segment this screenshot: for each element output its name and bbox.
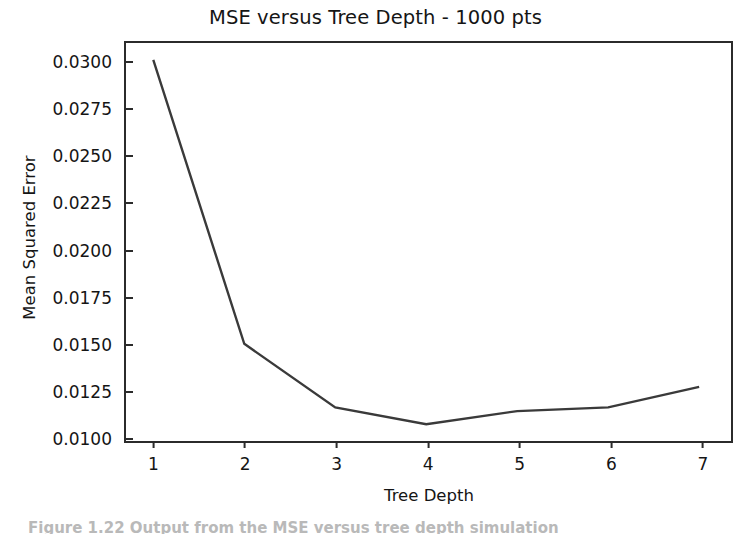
x-tick: 2 bbox=[240, 441, 251, 474]
x-tick: 3 bbox=[331, 441, 342, 474]
plot-area: 0.01000.01250.01500.01750.02000.02250.02… bbox=[124, 41, 733, 443]
x-tick-mark bbox=[336, 441, 338, 448]
y-tick: 0.0300 bbox=[53, 52, 126, 72]
y-tick-mark bbox=[126, 250, 133, 252]
y-tick-mark bbox=[126, 391, 133, 393]
y-tick: 0.0225 bbox=[53, 193, 126, 213]
x-tick-mark bbox=[610, 441, 612, 448]
x-tick: 4 bbox=[423, 441, 434, 474]
series-polyline bbox=[153, 60, 699, 424]
line-series-mean-squared-error bbox=[126, 43, 731, 441]
x-tick: 5 bbox=[514, 441, 525, 474]
y-tick: 0.0250 bbox=[53, 146, 126, 166]
y-tick-mark bbox=[126, 202, 133, 204]
y-tick-label: 0.0275 bbox=[53, 99, 126, 119]
x-tick-mark bbox=[519, 441, 521, 448]
y-tick-mark bbox=[126, 438, 133, 440]
y-tick-label: 0.0250 bbox=[53, 146, 126, 166]
y-tick-label: 0.0175 bbox=[53, 288, 126, 308]
y-tick-label: 0.0200 bbox=[53, 241, 126, 261]
figure-container: MSE versus Tree Depth - 1000 pts Mean Sq… bbox=[0, 0, 751, 534]
y-tick-mark bbox=[126, 297, 133, 299]
x-tick: 1 bbox=[148, 441, 159, 474]
x-tick-mark bbox=[244, 441, 246, 448]
y-tick-label: 0.0100 bbox=[53, 429, 126, 449]
y-tick-label: 0.0225 bbox=[53, 193, 126, 213]
y-tick: 0.0125 bbox=[53, 382, 126, 402]
y-tick-label: 0.0300 bbox=[53, 52, 126, 72]
y-tick: 0.0100 bbox=[53, 429, 126, 449]
x-tick-mark bbox=[152, 441, 154, 448]
y-tick: 0.0275 bbox=[53, 99, 126, 119]
figure-caption-remnant: Figure 1.22 Output from the MSE versus t… bbox=[28, 519, 728, 534]
x-tick: 7 bbox=[698, 441, 709, 474]
y-axis-label: Mean Squared Error bbox=[20, 88, 39, 388]
y-tick: 0.0175 bbox=[53, 288, 126, 308]
chart-title: MSE versus Tree Depth - 1000 pts bbox=[0, 6, 751, 29]
x-axis-label: Tree Depth bbox=[124, 486, 734, 505]
x-tick-mark bbox=[702, 441, 704, 448]
y-tick-mark bbox=[126, 61, 133, 63]
y-tick-mark bbox=[126, 108, 133, 110]
y-tick-label: 0.0125 bbox=[53, 382, 126, 402]
y-tick-mark bbox=[126, 155, 133, 157]
y-tick-mark bbox=[126, 344, 133, 346]
y-tick: 0.0150 bbox=[53, 335, 126, 355]
x-tick-mark bbox=[427, 441, 429, 448]
y-tick: 0.0200 bbox=[53, 241, 126, 261]
y-tick-label: 0.0150 bbox=[53, 335, 126, 355]
x-tick: 6 bbox=[606, 441, 617, 474]
